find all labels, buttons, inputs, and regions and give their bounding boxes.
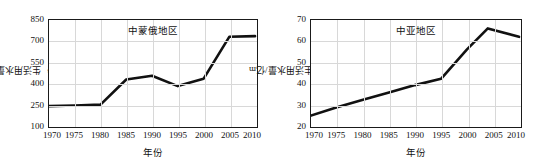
y-tick-label: 30 [297, 100, 306, 110]
gridline-vertical [390, 20, 391, 127]
x-tick-label: 2005 [485, 130, 503, 140]
gridline-vertical [495, 20, 496, 127]
x-tick-label: 1985 [380, 130, 398, 140]
gridline-horizontal [311, 84, 521, 85]
x-tick-label: 1970 [305, 130, 323, 140]
chart-panel-right: 生活用水量/亿m3 203040506070 中亚地区 197019751980… [272, 0, 545, 168]
gridline-vertical [231, 20, 232, 127]
two-panel-line-chart-figure: 生活用水量/亿m3 100250400550700850 中蒙俄地区 19701… [0, 0, 545, 168]
gridline-horizontal [311, 63, 521, 64]
gridline-horizontal [49, 41, 257, 42]
x-tick-label: 2010 [507, 130, 525, 140]
gridline-vertical [416, 20, 417, 127]
gridline-vertical [127, 20, 128, 127]
x-axis-tick-labels-right: 197019751980198519901995200020052010 [310, 130, 522, 144]
gridline-vertical [205, 20, 206, 127]
y-axis-tick-labels-left: 100250400550700850 [20, 12, 46, 130]
x-tick-label: 1970 [43, 130, 61, 140]
chart-panel-left: 生活用水量/亿m3 100250400550700850 中蒙俄地区 19701… [0, 0, 272, 168]
gridline-vertical [179, 20, 180, 127]
gridline-horizontal [49, 63, 257, 64]
y-tick-label: 400 [31, 78, 45, 88]
x-tick-label: 2010 [243, 130, 261, 140]
gridline-horizontal [49, 84, 257, 85]
y-tick-label: 50 [297, 57, 306, 67]
y-tick-label: 550 [31, 57, 45, 67]
x-tick-label: 1985 [117, 130, 135, 140]
gridline-horizontal [311, 106, 521, 107]
x-tick-label: 1990 [406, 130, 424, 140]
x-tick-label: 1980 [91, 130, 109, 140]
y-tick-label: 60 [297, 35, 306, 45]
x-tick-label: 1995 [432, 130, 450, 140]
x-tick-label: 1975 [65, 130, 83, 140]
x-tick-label: 1995 [169, 130, 187, 140]
y-tick-label: 700 [31, 35, 45, 45]
x-tick-label: 2005 [221, 130, 239, 140]
x-tick-label: 1975 [327, 130, 345, 140]
gridline-vertical [101, 20, 102, 127]
gridline-vertical [75, 20, 76, 127]
x-axis-tick-labels-left: 197019751980198519901995200020052010 [48, 130, 258, 144]
x-tick-label: 2000 [459, 130, 477, 140]
y-tick-label: 40 [297, 78, 306, 88]
y-tick-label: 850 [31, 14, 45, 24]
plot-area-right [310, 19, 522, 128]
gridline-vertical [337, 20, 338, 127]
x-tick-label: 2000 [195, 130, 213, 140]
gridline-vertical [442, 20, 443, 127]
gridline-horizontal [49, 106, 257, 107]
x-axis-title-left: 年份 [48, 145, 258, 159]
gridline-vertical [364, 20, 365, 127]
y-axis-tick-labels-right: 203040506070 [282, 12, 308, 130]
series-polyline [49, 36, 255, 106]
gridline-vertical [153, 20, 154, 127]
plot-area-left [48, 19, 258, 128]
gridline-vertical [469, 20, 470, 127]
y-axis-title-left: 生活用水量/亿m3 [6, 14, 20, 126]
y-tick-label: 70 [297, 14, 306, 24]
gridline-horizontal [311, 41, 521, 42]
x-tick-label: 1980 [354, 130, 372, 140]
y-tick-label: 100 [31, 121, 45, 131]
x-tick-label: 1990 [143, 130, 161, 140]
x-axis-title-right: 年份 [310, 145, 522, 159]
y-tick-label: 250 [31, 100, 45, 110]
